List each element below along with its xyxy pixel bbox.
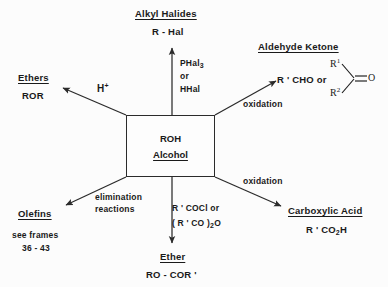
- arrow-to-aldehyde-ketone: [215, 81, 276, 115]
- reagent-elimination-line1: elimination: [95, 192, 142, 202]
- center-formula: ROH: [127, 133, 214, 144]
- node-title-carboxylic-acid: Carboxylic Acid: [288, 205, 362, 216]
- node-formula-carboxylic-acid: R ' CO2H: [306, 224, 347, 237]
- carbonyl-r2-text: R: [330, 87, 337, 98]
- carbonyl-r1-text: R: [330, 58, 337, 69]
- carbonyl-r2-superscript: 2: [337, 86, 341, 94]
- carboxylic-formula-head: R ' CO: [306, 224, 336, 235]
- node-title-ether: Ether: [160, 251, 185, 262]
- anhydride-head: ( R ' CO ): [172, 218, 210, 228]
- node-title-aldehyde-ketone: Aldehyde Ketone: [258, 41, 339, 52]
- reagent-phal3: PHal3: [180, 58, 204, 70]
- reagent-oxidation-upper: oxidation: [243, 99, 283, 109]
- node-title-alkyl-halides: Alkyl Halides: [135, 8, 197, 19]
- reagent-acyl-chloride-line1: R ' COCl or: [172, 203, 219, 213]
- carbonyl-structure: R1 R2 O: [330, 57, 386, 101]
- reagent-proton: H+: [97, 82, 109, 95]
- anhydride-tail: O: [214, 218, 221, 228]
- node-title-ethers: Ethers: [18, 72, 49, 83]
- carbonyl-r2-label: R2: [330, 86, 340, 98]
- node-formula-ether: RO - COR ': [146, 269, 197, 280]
- reagent-phal3-subscript: 3: [200, 62, 204, 69]
- reagent-phal3-text: PHal: [180, 58, 200, 68]
- reagent-elimination-line2: reactions: [95, 204, 135, 214]
- reagent-or-1: or: [180, 71, 189, 81]
- reagent-oxidation-lower: oxidation: [243, 176, 283, 186]
- alcohol-reaction-diagram: ROH Alcohol Alkyl Halides R - Hal PHal3 …: [0, 0, 388, 287]
- carbonyl-oxygen-label: O: [368, 72, 375, 83]
- carboxylic-formula-tail: H: [340, 224, 347, 235]
- center-label: Alcohol: [127, 149, 214, 160]
- reagent-hhal: HHal: [180, 84, 200, 94]
- olefins-note-line1: see frames: [12, 230, 58, 240]
- node-formula-ethers: ROR: [22, 90, 44, 101]
- center-node-alcohol: ROH Alcohol: [126, 115, 215, 177]
- arrow-to-ethers: [63, 88, 126, 115]
- olefins-note-line2: 36 - 43: [22, 243, 50, 253]
- node-title-olefins: Olefins: [18, 208, 52, 219]
- node-formula-alkyl-halides: R - Hal: [152, 26, 184, 37]
- carbonyl-r1-label: R1: [330, 57, 340, 69]
- node-formula-aldehyde-ketone: R ' CHO or: [277, 74, 327, 85]
- reagent-anhydride-line2: ( R ' CO )2O: [172, 218, 221, 230]
- reagent-proton-superscript: +: [104, 82, 108, 89]
- carbonyl-r1-superscript: 1: [337, 57, 341, 65]
